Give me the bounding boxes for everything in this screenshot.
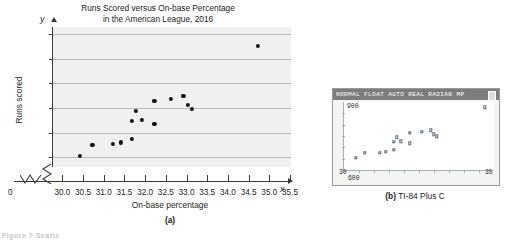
origin-label: 0 xyxy=(8,188,13,197)
calculator-y-min-label: 600 xyxy=(348,175,360,182)
calculator-data-point xyxy=(420,130,423,133)
x-axis-tick xyxy=(83,175,84,181)
calculator-y-max-label: 900 xyxy=(347,103,359,110)
data-point xyxy=(256,44,260,48)
gridline xyxy=(53,59,291,60)
panel-a-caption: (a) xyxy=(90,215,250,225)
x-axis-tick xyxy=(104,175,105,181)
data-point xyxy=(185,103,189,107)
calculator-panel: NORMAL FLOAT AUTO REAL RADIAN MP 900 600… xyxy=(332,88,504,243)
battery-icon xyxy=(488,91,496,101)
calculator-y-tick xyxy=(342,159,345,160)
data-point xyxy=(152,99,156,103)
calculator-data-point xyxy=(354,156,357,159)
x-axis-tick xyxy=(290,175,291,181)
calculator-data-point xyxy=(408,142,411,145)
calculator-data-point xyxy=(378,151,381,154)
gridline xyxy=(53,157,291,158)
data-point xyxy=(181,94,185,98)
panel-b-caption-prefix: (b) xyxy=(385,191,396,201)
gridline xyxy=(53,83,291,84)
calculator-x-axis xyxy=(343,170,493,171)
chart-title-line-1: Runs Scored versus On-base Percentage xyxy=(81,3,235,13)
calculator-x-max-label: 35 xyxy=(485,169,493,176)
data-point xyxy=(90,143,94,147)
x-axis-tick xyxy=(249,175,250,181)
x-axis-tick xyxy=(269,175,270,181)
y-axis-tick xyxy=(49,59,53,60)
data-point xyxy=(111,142,115,146)
data-point xyxy=(119,140,123,144)
calculator-y-tick xyxy=(342,136,345,137)
calculator-data-point xyxy=(363,151,366,154)
y-axis-tick xyxy=(49,157,53,158)
gridline xyxy=(53,34,291,35)
calculator-data-point xyxy=(399,140,402,143)
x-axis-tick xyxy=(187,175,188,181)
data-point xyxy=(130,119,134,123)
calculator-data-point xyxy=(429,129,432,132)
data-point xyxy=(140,118,144,122)
gridline xyxy=(53,133,291,134)
x-axis-tick xyxy=(145,175,146,181)
y-axis-tick xyxy=(49,34,53,35)
calculator-data-point xyxy=(483,106,486,109)
calculator-data-point xyxy=(392,140,395,143)
plot-area xyxy=(52,27,291,167)
panel-b-caption-text: TI-84 Plus C xyxy=(398,191,445,201)
x-axis-tick xyxy=(207,175,208,181)
calculator-data-point xyxy=(408,131,411,134)
chart-title-line-2: in the American League, 2016 xyxy=(103,14,213,24)
calculator-data-point xyxy=(384,150,387,153)
chart-title: Runs Scored versus On-base Percentage in… xyxy=(58,3,258,24)
data-point xyxy=(152,122,156,126)
calculator-data-point xyxy=(392,148,395,151)
scatter-plot-panel: Runs Scored versus On-base Percentage in… xyxy=(0,0,300,244)
gridline xyxy=(53,108,291,109)
x-axis-tick xyxy=(166,175,167,181)
y-axis-tick xyxy=(49,83,53,84)
y-axis-arrow-icon xyxy=(51,17,57,22)
calculator-status-bar: NORMAL FLOAT AUTO REAL RADIAN MP xyxy=(333,89,499,100)
calculator-y-tick xyxy=(342,147,345,148)
y-axis-tick xyxy=(49,108,53,109)
x-axis-line xyxy=(14,181,290,182)
y-axis-tick xyxy=(49,133,53,134)
figure-note: Figure 7 Scatte xyxy=(2,232,60,239)
calculator-screen: NORMAL FLOAT AUTO REAL RADIAN MP 900 600… xyxy=(332,88,500,186)
x-axis-tick xyxy=(228,175,229,181)
x-axis-title: On-base percentage xyxy=(90,200,250,210)
x-axis-tick xyxy=(124,175,125,181)
data-point xyxy=(130,136,134,140)
data-point xyxy=(169,97,173,101)
data-point xyxy=(190,106,194,110)
x-axis-tick-label: 35.5 xyxy=(273,188,307,197)
calculator-y-tick xyxy=(342,113,345,114)
calculator-data-point xyxy=(435,135,438,138)
x-axis-break-icon xyxy=(20,172,42,186)
calculator-data-point xyxy=(395,135,398,138)
panel-b-caption: (b) TI-84 Plus C xyxy=(332,191,498,201)
calculator-y-tick xyxy=(342,125,345,126)
x-axis-tick xyxy=(62,175,63,181)
calculator-plot-area xyxy=(343,102,494,170)
y-axis-title: Runs scored xyxy=(14,55,24,145)
y-axis-break-icon xyxy=(40,164,54,184)
data-point xyxy=(134,108,138,112)
calculator-x-min-label: 30 xyxy=(339,169,347,176)
y-axis-letter: y xyxy=(40,14,45,24)
